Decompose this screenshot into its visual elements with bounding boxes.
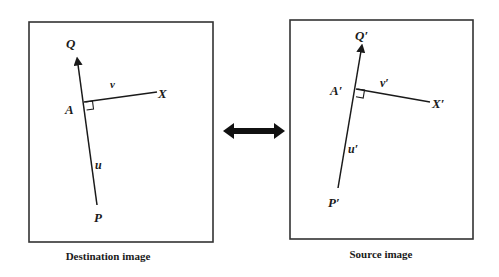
destination-label-a: A — [64, 102, 74, 117]
source-label-q: Q′ — [355, 28, 368, 43]
source-label-u: u′ — [348, 142, 358, 156]
double-arrow-icon — [223, 123, 285, 139]
source-caption: Source image — [349, 248, 412, 260]
destination-right-angle-icon — [86, 101, 94, 110]
destination-label-v: v — [110, 78, 115, 90]
source-frame — [290, 20, 473, 239]
destination-panel: Q A v X u P Destination image — [29, 22, 213, 262]
destination-caption: Destination image — [66, 250, 151, 262]
source-line-ax — [356, 89, 430, 102]
source-label-a: A′ — [329, 83, 343, 98]
diagram-canvas: Q A v X u P Destination image Q′ A′ v′ X… — [0, 0, 499, 277]
destination-line-ax — [84, 92, 157, 102]
destination-label-x: X — [157, 86, 167, 101]
destination-label-u: u — [95, 158, 102, 172]
destination-frame — [29, 22, 213, 242]
source-label-v: v′ — [380, 76, 389, 90]
source-label-x: X′ — [431, 96, 445, 111]
source-line-pq — [338, 48, 362, 188]
source-label-p: P′ — [328, 195, 340, 210]
destination-label-q: Q — [66, 36, 76, 51]
destination-line-pq — [78, 61, 98, 205]
destination-label-p: P — [94, 210, 103, 225]
source-panel: Q′ A′ v′ X′ u′ P′ Source image — [290, 20, 473, 260]
